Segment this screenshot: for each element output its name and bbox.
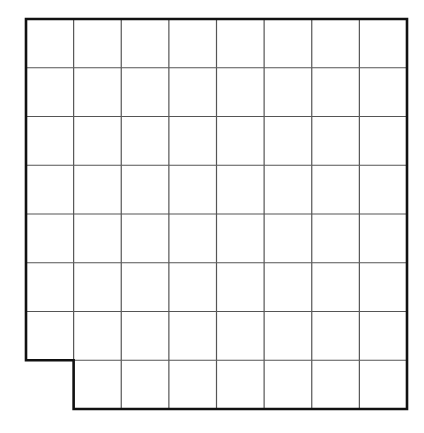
grid-lines: [26, 19, 407, 409]
grid-diagram: 8x8 grid with bottom-left square removed: [0, 0, 424, 433]
grid-figure: [0, 0, 424, 433]
